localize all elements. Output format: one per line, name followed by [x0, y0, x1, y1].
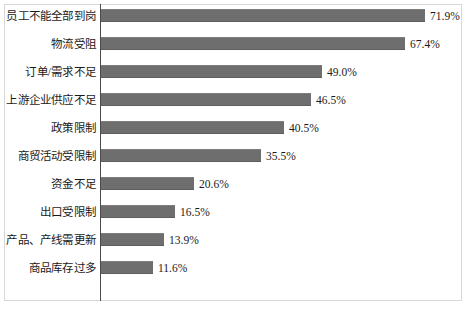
category-label: 商贸活动受限制	[18, 142, 96, 170]
bar-track	[101, 121, 284, 134]
bar-value-label: 16.5%	[180, 198, 210, 226]
category-label: 订单/需求不足	[25, 58, 96, 86]
bar-fill	[101, 9, 425, 22]
bar-track	[101, 65, 322, 78]
bar-fill	[101, 149, 261, 162]
bar-value-label: 11.6%	[158, 254, 187, 282]
bar-row: 上游企业供应不足46.5%	[0, 86, 470, 114]
category-label: 资金不足	[51, 170, 96, 198]
bar-value-label: 35.5%	[266, 142, 296, 170]
category-label: 员工不能全部到岗	[6, 2, 96, 30]
bar-row: 商品库存过多11.6%	[0, 254, 470, 282]
bar-fill	[101, 93, 311, 106]
bar-track	[101, 177, 194, 190]
bar-track	[101, 233, 164, 246]
bar-track	[101, 261, 153, 274]
bar-row: 政策限制40.5%	[0, 114, 470, 142]
bar-track	[101, 149, 261, 162]
category-label: 政策限制	[51, 114, 96, 142]
bar-value-label: 13.9%	[169, 226, 199, 254]
bar-track	[101, 9, 425, 22]
bar-fill	[101, 233, 164, 246]
bar-fill	[101, 121, 284, 134]
bar-fill	[101, 65, 322, 78]
bar-value-label: 20.6%	[199, 170, 229, 198]
bar-row: 产品、产线需更新13.9%	[0, 226, 470, 254]
bar-value-label: 67.4%	[410, 30, 440, 58]
bar-fill	[101, 177, 194, 190]
bar-row: 物流受阻67.4%	[0, 30, 470, 58]
bar-track	[101, 205, 175, 218]
category-label: 产品、产线需更新	[6, 226, 96, 254]
bars-layer: 员工不能全部到岗71.9%物流受阻67.4%订单/需求不足49.0%上游企业供应…	[0, 0, 470, 310]
category-label: 出口受限制	[40, 198, 96, 226]
bar-row: 员工不能全部到岗71.9%	[0, 2, 470, 30]
bar-row: 资金不足20.6%	[0, 170, 470, 198]
bar-value-label: 46.5%	[316, 86, 346, 114]
category-label: 上游企业供应不足	[6, 86, 96, 114]
bar-fill	[101, 261, 153, 274]
bar-value-label: 71.9%	[430, 2, 460, 30]
bar-row: 商贸活动受限制35.5%	[0, 142, 470, 170]
category-label: 商品库存过多	[29, 254, 96, 282]
category-label: 物流受阻	[51, 30, 96, 58]
bar-chart: 员工不能全部到岗71.9%物流受阻67.4%订单/需求不足49.0%上游企业供应…	[0, 0, 470, 310]
bar-track	[101, 37, 405, 50]
bar-track	[101, 93, 311, 106]
bar-row: 订单/需求不足49.0%	[0, 58, 470, 86]
bar-row: 出口受限制16.5%	[0, 198, 470, 226]
bar-value-label: 49.0%	[327, 58, 357, 86]
bar-fill	[101, 37, 405, 50]
bar-fill	[101, 205, 175, 218]
bar-value-label: 40.5%	[289, 114, 319, 142]
